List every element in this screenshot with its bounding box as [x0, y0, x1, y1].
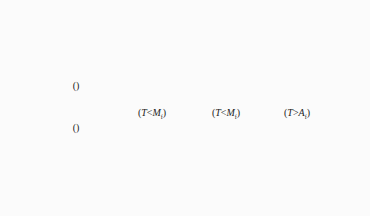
deform-label-2: (T<Mf): [210, 84, 242, 123]
deform-label-1: (T<Mf): [136, 84, 168, 123]
cool-label: (): [61, 68, 91, 96]
lattice-diagram: [0, 0, 370, 216]
heat-label-2: (T>Af): [280, 84, 314, 123]
heat-label-1: (): [61, 110, 91, 138]
